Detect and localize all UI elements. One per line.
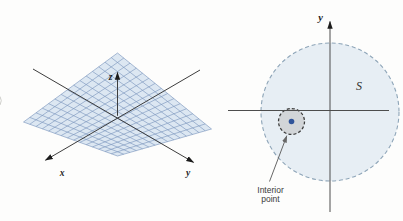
interior-point-caption-line1: Interior [257,185,284,195]
interior-point-dot [289,119,295,125]
y-axis-label: y [185,168,191,178]
surface-plot: x y z [24,53,212,178]
y-axis-2d-label: y [316,12,323,23]
x-axis-label: x [59,168,65,178]
interior-point-caption-line2: point [261,194,280,204]
textbook-figure: x y z y S Interior point [0,0,403,221]
figure-canvas: x y z y S Interior point [0,0,403,221]
edge-artifact [0,97,1,106]
set-S-label: S [356,79,362,93]
region-diagram: y S Interior point [228,12,399,213]
z-axis-label: z [108,72,113,82]
